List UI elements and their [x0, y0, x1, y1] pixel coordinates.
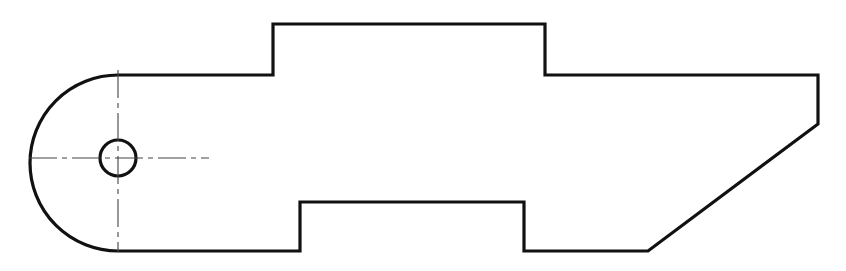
technical-drawing-canvas — [0, 0, 846, 271]
part-outline-svg — [0, 0, 846, 271]
part-outline-path — [30, 24, 818, 251]
